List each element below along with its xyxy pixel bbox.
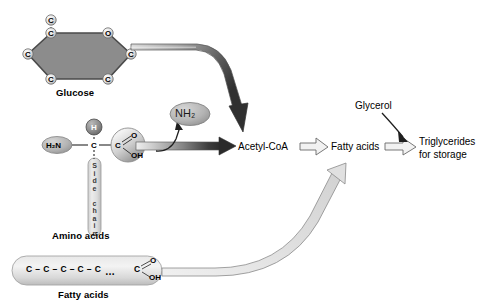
fatty-acid-hydroxyl-label: OH — [149, 273, 161, 282]
glucose-atom-label-left: C — [25, 50, 31, 59]
glucose-atom-label-exocyclic: C — [48, 16, 54, 25]
carbonyl-oxygen-label: O — [131, 131, 137, 140]
glucose-atom-label-right: C — [128, 50, 134, 59]
glucose-atom-label-top-left: C — [48, 29, 54, 38]
fatty-acid-terminal-carbon-label: C — [134, 265, 140, 275]
arrow-acetyl-coa-to-fatty-acids — [300, 138, 328, 155]
fatty-acid-chain-label: C – C – C – C – C — [26, 265, 101, 275]
glycerol-node-label: Glycerol — [355, 100, 392, 112]
arrow-fatty-acid-molecule-to-fatty-acids — [162, 163, 346, 276]
carboxyl-carbon-label: C — [115, 141, 121, 150]
fatty-acid-carbonyl-oxygen-label: O — [150, 256, 156, 265]
glucose-ring-shape — [28, 33, 131, 79]
arrow-ribbon-body — [131, 44, 243, 112]
glucose-molecule-graphic — [23, 15, 136, 84]
hydrogen-atom-label: H — [91, 123, 97, 132]
glucose-atom-label-top-right: O — [105, 29, 111, 38]
open-arrow-shape — [300, 138, 328, 155]
amino-acids-label: Amino acids — [52, 231, 110, 242]
arrow-amino-acids-to-acetyl-coa — [136, 137, 236, 155]
arrow-ribbon-body — [136, 142, 221, 150]
diagram-graphics — [0, 0, 490, 308]
glucose-atom-label-bottom-left: C — [48, 75, 54, 84]
glucose-atom-label-bottom-right: C — [105, 75, 111, 84]
side-chain-label: Side chain — [90, 162, 98, 232]
alpha-carbon-label: C — [91, 141, 97, 150]
glucose-label: Glucose — [56, 88, 94, 99]
triglycerides-node-label-line2: for storage — [419, 149, 467, 161]
arrow-head — [219, 137, 236, 155]
curved-ribbon-body — [162, 173, 341, 276]
arrow-glycerol-to-triglycerides — [382, 113, 408, 142]
fatty-acids-node-label: Fatty acids — [331, 141, 379, 153]
carboxyl-hydroxyl-label: OH — [131, 151, 143, 160]
amino-group-label: H₂N — [46, 141, 61, 150]
acetyl-coa-node-label: Acetyl-CoA — [238, 141, 288, 153]
nh2-label: NH₂ — [175, 107, 195, 120]
fatty-acid-ellipsis: … — [105, 266, 116, 278]
arrow-head — [229, 103, 248, 132]
fatty-acids-molecule-label: Fatty acids — [58, 290, 109, 301]
pathway-diagram: C C O C C C C Glucose H₂N H C C O OH Sid… — [0, 0, 490, 308]
triglycerides-node-label-line1: Triglycerides — [419, 136, 475, 148]
